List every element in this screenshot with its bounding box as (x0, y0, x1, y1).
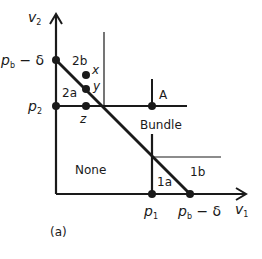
region-bundle-label: Bundle (140, 119, 182, 131)
region-2b-label: 2b (72, 55, 87, 67)
point-y-label: y (93, 80, 100, 92)
dot-p1 (148, 190, 156, 198)
region-2a-label: 2a (62, 87, 77, 99)
y-tick-pb-delta: pb − δ (1, 53, 44, 70)
x-axis-label: v1 (235, 202, 248, 219)
dot-pb-delta-y (52, 56, 60, 64)
diagram-canvas (0, 0, 262, 259)
region-1b-label: 1b (190, 166, 205, 178)
figure-caption: (a) (50, 226, 67, 238)
dot-y (82, 85, 90, 93)
dot-pb-delta-x (186, 190, 194, 198)
point-x-label: x (92, 64, 99, 76)
point-A-label: A (159, 89, 167, 101)
dot-z (82, 102, 90, 110)
dot-A (148, 102, 156, 110)
point-z-label: z (80, 113, 86, 125)
region-1a-label: 1a (157, 176, 172, 188)
y-axis-label: v12 (28, 10, 41, 27)
dot-x (82, 71, 90, 79)
x-tick-pb-delta: pb − δ (178, 204, 221, 221)
x-tick-p1: p1 (144, 204, 158, 221)
y-tick-p2: p2 (28, 99, 42, 116)
dot-p2 (52, 102, 60, 110)
region-none-label: None (75, 164, 106, 176)
